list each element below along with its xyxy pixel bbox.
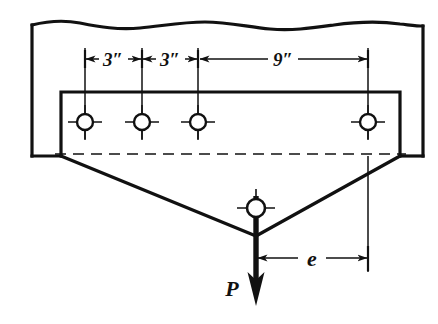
load-label-P: P xyxy=(224,276,239,301)
dimension-label-3in-b: 3″ xyxy=(159,49,180,70)
rivet-2-circle xyxy=(134,114,150,130)
dimension-label-3in-a: 3″ xyxy=(102,49,123,70)
dimension-label-e: e xyxy=(307,246,317,271)
rivet-1-circle xyxy=(77,114,93,130)
rivet-5-circle xyxy=(247,199,265,217)
rivet-3-circle xyxy=(190,114,206,130)
engineering-figure: 3″ 3″ 9″ xyxy=(0,0,438,324)
figure-canvas: 3″ 3″ 9″ xyxy=(0,0,438,324)
rivet-4-circle xyxy=(360,114,376,130)
figure-background xyxy=(0,0,438,324)
dimension-label-9in: 9″ xyxy=(273,49,293,70)
